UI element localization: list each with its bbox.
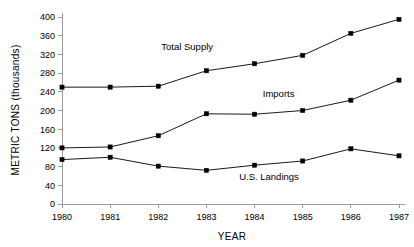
data-point-marker bbox=[349, 147, 353, 151]
data-point-marker bbox=[60, 85, 64, 89]
data-point-marker bbox=[252, 62, 256, 66]
y-tick-label: 120 bbox=[40, 143, 55, 153]
series-u-s-landings bbox=[60, 147, 401, 173]
series-label-imports: Imports bbox=[263, 88, 295, 99]
y-tick-label: 80 bbox=[45, 162, 55, 172]
data-point-marker bbox=[60, 146, 64, 150]
y-tick-label: 0 bbox=[50, 199, 55, 209]
data-point-marker bbox=[204, 112, 208, 116]
data-point-marker bbox=[397, 154, 401, 158]
y-axis-title: METRIC TONS (thousands) bbox=[10, 44, 21, 175]
x-tick-label: 1987 bbox=[389, 212, 409, 222]
y-tick-label: 40 bbox=[45, 181, 55, 191]
y-tick-label: 400 bbox=[40, 12, 55, 22]
data-point-marker bbox=[156, 164, 160, 168]
y-tick-label: 360 bbox=[40, 31, 55, 41]
series-polyline bbox=[62, 19, 399, 87]
x-tick-label: 1983 bbox=[196, 212, 216, 222]
data-point-marker bbox=[108, 145, 112, 149]
data-point-marker bbox=[252, 163, 256, 167]
data-point-marker bbox=[252, 112, 256, 116]
data-point-marker bbox=[349, 98, 353, 102]
y-tick-label: 200 bbox=[40, 106, 55, 116]
y-tick-label: 160 bbox=[40, 125, 55, 135]
chart-container: 04080120160200240280320360400 1980198119… bbox=[0, 0, 414, 247]
x-axis-title: YEAR bbox=[218, 231, 246, 242]
x-tick-label: 1982 bbox=[148, 212, 168, 222]
data-point-marker bbox=[204, 168, 208, 172]
series-total-supply bbox=[60, 17, 401, 89]
x-tick-label: 1981 bbox=[100, 212, 120, 222]
series-annotations: Total SupplyImportsU.S. Landings bbox=[161, 41, 299, 182]
series-polyline bbox=[62, 149, 399, 171]
data-point-marker bbox=[397, 78, 401, 82]
data-point-marker bbox=[301, 159, 305, 163]
y-tick-label: 280 bbox=[40, 68, 55, 78]
series-label-u-s-landings: U.S. Landings bbox=[239, 171, 299, 182]
data-point-marker bbox=[397, 17, 401, 21]
data-point-marker bbox=[60, 157, 64, 161]
x-tick-label: 1985 bbox=[293, 212, 313, 222]
data-point-marker bbox=[156, 84, 160, 88]
chart-axes bbox=[62, 13, 405, 204]
data-point-marker bbox=[349, 31, 353, 35]
data-point-marker bbox=[156, 134, 160, 138]
x-tick-label: 1980 bbox=[52, 212, 72, 222]
series-polyline bbox=[62, 80, 399, 148]
data-point-marker bbox=[301, 108, 305, 112]
line-chart: 04080120160200240280320360400 1980198119… bbox=[0, 0, 414, 247]
y-axis-ticks: 04080120160200240280320360400 bbox=[40, 12, 62, 209]
data-point-marker bbox=[204, 69, 208, 73]
x-tick-label: 1986 bbox=[341, 212, 361, 222]
chart-series bbox=[60, 17, 401, 172]
y-tick-label: 320 bbox=[40, 50, 55, 60]
series-label-total-supply: Total Supply bbox=[161, 41, 213, 52]
x-axis-ticks: 19801981198219831984198519861987 bbox=[52, 204, 409, 222]
y-tick-label: 240 bbox=[40, 87, 55, 97]
data-point-marker bbox=[301, 53, 305, 57]
x-tick-label: 1984 bbox=[245, 212, 265, 222]
data-point-marker bbox=[108, 85, 112, 89]
data-point-marker bbox=[108, 155, 112, 159]
